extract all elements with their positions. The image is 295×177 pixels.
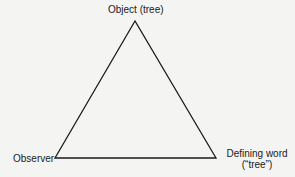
vertex-label-defining-word: Defining word (“tree”) xyxy=(221,148,293,170)
defining-word-line1: Defining word xyxy=(221,148,293,159)
defining-word-line2: (“tree”) xyxy=(221,159,293,170)
vertex-label-observer: Observer xyxy=(13,153,54,164)
vertex-label-object: Object (tree) xyxy=(108,4,164,15)
triangle-shape xyxy=(55,21,216,158)
